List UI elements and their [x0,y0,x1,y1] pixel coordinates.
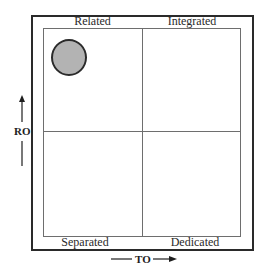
arrow-right-icon [153,255,177,263]
axis-label-ro: RO [14,125,31,137]
quadrant-label-dedicated: Dedicated [143,236,247,249]
quadrant-label-integrated: Integrated [143,15,241,28]
axis-line-horizontal-left [111,256,133,262]
horizontal-divider [43,131,241,132]
vertical-divider [142,28,143,237]
axis-line-vertical-lower [18,141,26,167]
arrow-up-icon [18,95,26,123]
position-marker-circle [51,39,87,76]
quadrant-label-separated: Separated [43,236,127,249]
quadrant-label-related: Related [43,15,142,28]
axis-label-to: TO [135,253,151,265]
